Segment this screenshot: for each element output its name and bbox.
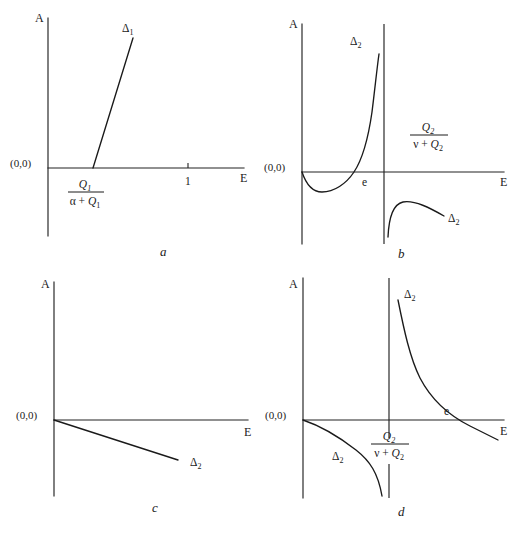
x-axis-label: E xyxy=(500,424,507,438)
x-axis-label: E xyxy=(500,175,507,189)
series-delta1-line xyxy=(93,38,133,168)
x-tick-label-e: e xyxy=(362,176,367,188)
fraction-denominator: ν + Q2 xyxy=(374,447,404,462)
panel-letter: b xyxy=(398,246,405,261)
series-label-delta2: Δ2 xyxy=(190,456,201,471)
series-delta2-upper-right xyxy=(398,300,498,440)
fraction-denominator: ν + Q2 xyxy=(413,138,443,153)
asymptote-label-fraction: Q2 ν + Q2 xyxy=(410,121,448,153)
origin-label: (0,0) xyxy=(10,157,31,170)
y-axis-label: A xyxy=(41,277,50,291)
series-label-delta2-lower: Δ2 xyxy=(332,450,343,465)
panel-d: A E (0,0) e Δ2 Δ2 Q2 ν + Q2 d xyxy=(258,268,516,536)
asymptote-label-fraction: Q2 ν + Q2 xyxy=(371,430,409,462)
series-delta2-lower-right xyxy=(388,202,444,237)
origin-label: (0,0) xyxy=(16,409,37,422)
series-label-delta2-upper: Δ2 xyxy=(350,35,361,50)
panel-a: A E (0,0) 1 Δ1 Q1 α + Q1 a xyxy=(0,0,258,268)
series-label-delta1: Δ1 xyxy=(122,22,133,37)
fraction-denominator: α + Q1 xyxy=(70,195,101,210)
panel-letter: c xyxy=(152,500,158,515)
y-axis-label: A xyxy=(289,17,298,31)
x-tick-label-e: e xyxy=(444,405,449,417)
panel-letter: a xyxy=(160,244,167,259)
series-delta2-line xyxy=(54,420,178,460)
series-label-delta2-upper: Δ2 xyxy=(404,288,415,303)
y-axis-label: A xyxy=(35,11,44,25)
panel-letter: d xyxy=(398,504,405,519)
x-axis-label: E xyxy=(244,425,251,439)
series-label-delta2-lower: Δ2 xyxy=(448,212,459,227)
series-delta2-upper-left xyxy=(302,54,379,192)
x-axis-label: E xyxy=(240,171,247,185)
fraction-numerator: Q2 xyxy=(422,121,434,136)
y-axis-label: A xyxy=(289,277,298,291)
origin-label: (0,0) xyxy=(264,161,285,174)
panel-c: A E (0,0) Δ2 c xyxy=(0,268,258,536)
fraction-numerator: Q1 xyxy=(79,178,91,193)
panel-b: A E (0,0) e Δ2 Δ2 Q2 ν + Q2 b xyxy=(258,0,516,268)
origin-label: (0,0) xyxy=(265,409,286,422)
x-tick-label-one: 1 xyxy=(185,175,191,187)
x-tick-label-fraction: Q1 α + Q1 xyxy=(68,178,104,210)
figure-four-panel-plots: A E (0,0) 1 Δ1 Q1 α + Q1 a xyxy=(0,0,516,536)
fraction-numerator: Q2 xyxy=(383,430,395,445)
